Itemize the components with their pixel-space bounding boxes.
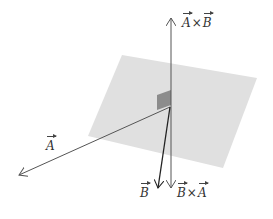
label-b-cross-a-right: A — [198, 182, 207, 199]
label-cross-operator: × — [192, 16, 202, 30]
label-b-cross-a-left: B — [177, 182, 186, 199]
label-b-text: B — [140, 182, 149, 199]
diagram-canvas — [0, 0, 273, 219]
label-a-text: A — [46, 135, 55, 152]
label-b-cross-a: B×A — [177, 182, 207, 199]
cross-product-diagram: A×B A B B×A — [0, 0, 273, 219]
label-cross-operator: × — [187, 186, 197, 200]
label-a-cross-b-left: A — [182, 12, 191, 29]
label-a-cross-b-right: B — [203, 12, 212, 29]
label-b: B — [140, 182, 149, 199]
plane — [88, 55, 257, 168]
label-a: A — [46, 135, 55, 152]
label-a-cross-b: A×B — [182, 12, 212, 29]
